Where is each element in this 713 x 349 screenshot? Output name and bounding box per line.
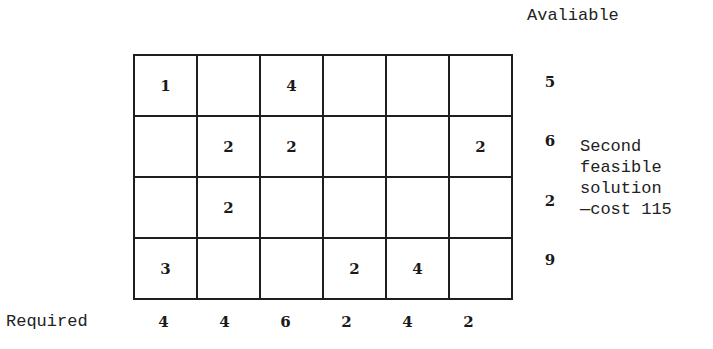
required-value: 4 xyxy=(133,313,194,331)
available-header: Avaliable xyxy=(527,6,619,25)
note-line: —cost 115 xyxy=(580,199,672,220)
grid-cell: 2 xyxy=(449,116,512,177)
grid-cell xyxy=(323,55,386,116)
grid-cell: 1 xyxy=(134,55,197,116)
allocation-grid: 1 4 2 2 2 2 3 2 4 xyxy=(133,54,513,300)
required-value: 4 xyxy=(377,313,438,331)
grid-row: 2 2 2 xyxy=(134,116,512,177)
grid-row: 3 2 4 xyxy=(134,238,512,299)
grid-row: 1 4 xyxy=(134,55,512,116)
grid-cell xyxy=(386,177,449,238)
note-line: feasible xyxy=(580,157,672,178)
grid-cell xyxy=(134,177,197,238)
required-value: 2 xyxy=(438,313,499,331)
grid-cell xyxy=(386,55,449,116)
grid-cell xyxy=(260,177,323,238)
required-label: Required xyxy=(6,312,88,331)
grid-cell xyxy=(449,55,512,116)
grid-cell xyxy=(386,116,449,177)
grid-cell: 3 xyxy=(134,238,197,299)
grid-cell xyxy=(323,177,386,238)
solution-note: Second feasible solution —cost 115 xyxy=(580,136,672,220)
available-value: 5 xyxy=(540,73,560,91)
available-value: 2 xyxy=(540,192,560,210)
grid-cell: 2 xyxy=(260,116,323,177)
required-value: 6 xyxy=(255,313,316,331)
grid-cell xyxy=(197,55,260,116)
grid-cell xyxy=(449,177,512,238)
grid-cell xyxy=(197,238,260,299)
note-line: solution xyxy=(580,178,672,199)
grid-row: 2 xyxy=(134,177,512,238)
grid-cell xyxy=(260,238,323,299)
note-line: Second xyxy=(580,136,672,157)
grid-cell: 2 xyxy=(197,116,260,177)
grid-cell xyxy=(134,116,197,177)
available-value: 6 xyxy=(540,132,560,150)
grid-cell: 4 xyxy=(386,238,449,299)
required-value: 2 xyxy=(316,313,377,331)
grid-cell xyxy=(323,116,386,177)
grid-cell xyxy=(449,238,512,299)
grid-cell: 4 xyxy=(260,55,323,116)
grid-cell: 2 xyxy=(197,177,260,238)
required-value: 4 xyxy=(194,313,255,331)
grid-cell: 2 xyxy=(323,238,386,299)
available-value: 9 xyxy=(540,251,560,269)
